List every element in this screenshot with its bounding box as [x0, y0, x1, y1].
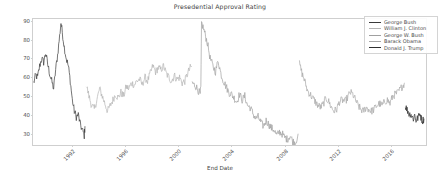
x-tick-label: 2012: [328, 148, 342, 162]
chart-title: Presedential Approval Rating: [0, 3, 440, 10]
x-tick-mark: [338, 145, 339, 147]
legend-item[interactable]: Donald J. Trump: [367, 45, 435, 51]
y-tick-label: 30: [23, 131, 30, 137]
series-line: [299, 60, 404, 114]
y-tick-label: 40: [23, 112, 30, 118]
y-tick-mark: [31, 58, 33, 59]
x-tick-mark: [178, 145, 179, 147]
y-tick-label: 70: [23, 55, 30, 61]
chart-legend: George BushWilliam J. ClintonGeorge W. B…: [364, 16, 438, 54]
y-tick-mark: [31, 40, 33, 41]
legend-line-icon: [369, 28, 381, 29]
x-tick-mark: [72, 145, 73, 147]
legend-line-icon: [369, 47, 381, 48]
x-axis-label: End Date: [0, 165, 440, 171]
y-tick-mark: [31, 96, 33, 97]
y-tick-mark: [31, 77, 33, 78]
x-tick-label: 1996: [115, 148, 129, 162]
x-tick-mark: [391, 145, 392, 147]
series-line: [192, 22, 298, 145]
x-tick-label: 2000: [169, 148, 183, 162]
y-tick-label: 60: [23, 74, 30, 80]
legend-line-icon: [369, 41, 381, 42]
x-tick-mark: [231, 145, 232, 147]
y-tick-mark: [31, 134, 33, 135]
series-line: [34, 24, 85, 139]
y-tick-label: 80: [23, 37, 30, 43]
x-tick-label: 2004: [222, 148, 236, 162]
y-tick-mark: [31, 21, 33, 22]
series-line: [405, 106, 424, 124]
x-tick-label: 2008: [275, 148, 289, 162]
legend-line-icon: [369, 22, 381, 23]
x-tick-label: 2016: [382, 148, 396, 162]
x-tick-label: 1992: [62, 148, 76, 162]
y-tick-label: 50: [23, 93, 30, 99]
series-line: [86, 64, 191, 113]
chart-figure: Presedential Approval Rating 30405060708…: [0, 0, 440, 179]
legend-line-icon: [369, 35, 381, 36]
legend-label: Donald J. Trump: [384, 45, 424, 51]
y-tick-label: 90: [23, 18, 30, 24]
y-tick-mark: [31, 115, 33, 116]
